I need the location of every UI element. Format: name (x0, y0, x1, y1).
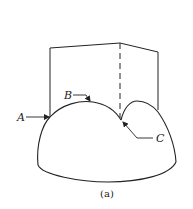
plane-top-left-edge (50, 43, 120, 48)
figure-caption: (a) (100, 188, 114, 199)
folded-plane (50, 43, 158, 118)
base-curve (38, 162, 176, 182)
plane-top-right-edge (120, 43, 158, 52)
diagram-canvas: A B C (a) (0, 0, 193, 209)
small-dome-curve (121, 101, 176, 162)
arrow-c (123, 122, 153, 138)
label-a: A (16, 111, 25, 124)
arrow-b (73, 95, 90, 101)
label-b: B (63, 89, 72, 102)
diagram-figure: A B C (a) (0, 0, 193, 209)
label-c: C (156, 132, 165, 145)
